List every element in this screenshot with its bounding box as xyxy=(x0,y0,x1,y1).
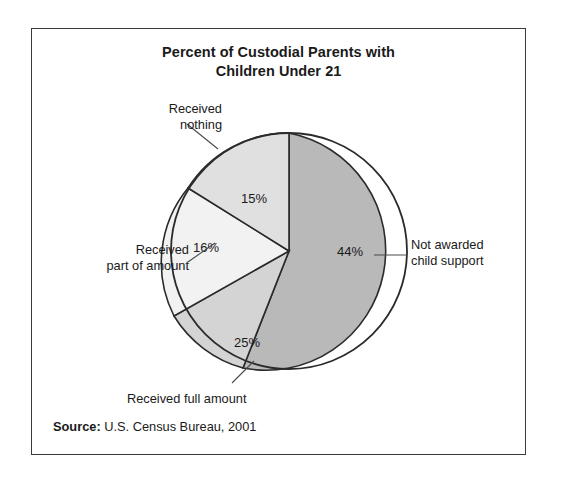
source-text: U.S. Census Bureau, 2001 xyxy=(101,419,257,434)
source-label: Source: xyxy=(53,419,101,434)
slice-label-received-nothing: 15% xyxy=(241,191,267,206)
callout-received-full-amount: Received full amount xyxy=(127,391,327,407)
slice-label-not-awarded: 44% xyxy=(337,244,363,259)
slice-label-received-part: 16% xyxy=(193,240,219,255)
source-note: Source: U.S. Census Bureau, 2001 xyxy=(53,419,256,434)
callout-received-part-of-amount: Received part of amount xyxy=(44,242,189,274)
figure-frame: Percent of Custodial Parents with Childr… xyxy=(31,28,526,455)
pie-chart: 44% 25% 16% 15% Received nothing Receive… xyxy=(32,29,527,456)
slice-label-received-full: 25% xyxy=(234,335,260,350)
callout-not-awarded-child-support: Not awarded child support xyxy=(411,237,529,269)
callout-received-nothing: Received nothing xyxy=(112,101,222,133)
